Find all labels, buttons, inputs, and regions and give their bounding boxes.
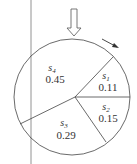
roulette-wheel-diagram: s4 0.45 s1 0.11 s2 0.15 s3 0.29	[0, 0, 137, 164]
rotation-arrow-icon	[102, 39, 119, 48]
slice-s2-value: 0.15	[98, 112, 118, 124]
slice-s4: s4 0.45	[45, 62, 65, 85]
slice-s3: s3 0.29	[56, 117, 76, 141]
slice-s2: s2 0.15	[98, 101, 118, 124]
slice-s3-value: 0.29	[56, 129, 76, 141]
slice-s4-value: 0.45	[45, 73, 65, 85]
pointer-down-arrow-icon	[67, 9, 81, 36]
slice-s1-value: 0.11	[99, 81, 118, 93]
slice-s1: s1 0.11	[99, 70, 118, 93]
